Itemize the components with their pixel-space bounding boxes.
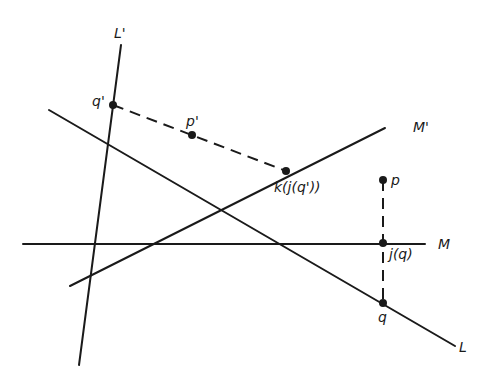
point-p-prime: [188, 131, 196, 139]
line-M-prime: [70, 128, 385, 286]
label-q: q: [378, 309, 387, 325]
label-j-q: j(q): [387, 246, 413, 262]
point-q: [379, 299, 387, 307]
label-q-prime: q': [92, 93, 105, 109]
label-M-prime: M': [413, 119, 429, 135]
point-p: [379, 176, 387, 184]
label-p-prime: p': [185, 113, 199, 129]
line-L: [49, 110, 455, 346]
label-M: M: [438, 236, 450, 252]
label-k-j-q-prime: k(j(q')): [274, 179, 321, 195]
point-q-prime: [109, 101, 117, 109]
diagram-canvas: L' L M' M q' p' k(j(q')) p j(q) q: [0, 0, 491, 378]
dashed-segment-q-prime-to-k: [113, 105, 286, 171]
label-L-prime: L': [114, 25, 126, 41]
point-k-j-q-prime: [282, 167, 290, 175]
point-j-q: [379, 239, 387, 247]
label-p: p: [390, 172, 400, 188]
label-L: L: [459, 339, 467, 355]
geometry-diagram: L' L M' M q' p' k(j(q')) p j(q) q: [0, 0, 491, 378]
